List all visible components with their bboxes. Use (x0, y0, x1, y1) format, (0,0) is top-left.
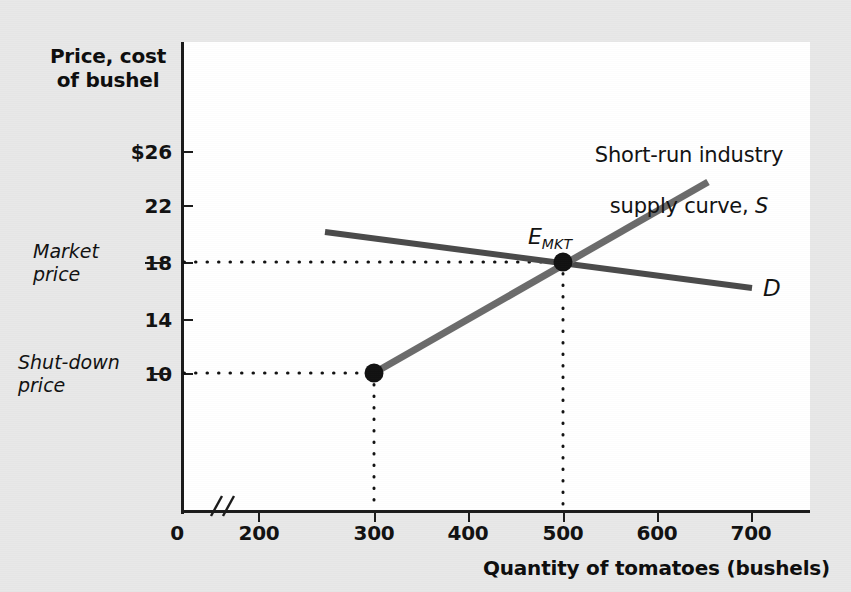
shutdown-point-marker (365, 364, 384, 383)
demand-curve-label: D (763, 274, 781, 302)
supply-label-symbol: S (755, 194, 768, 218)
figure-container: Price, cost of bushel Quantity of tomato… (0, 0, 851, 592)
supply-label-line1: Short-run industry (595, 143, 783, 167)
chart-graphics (0, 0, 851, 592)
equilibrium-label-main: E (528, 224, 542, 249)
equilibrium-point-marker (554, 253, 573, 272)
equilibrium-label: EMKT (528, 224, 572, 253)
x-axis-break-icon (211, 496, 234, 516)
supply-curve-label: Short-run industry supply curve, S (563, 117, 815, 219)
supply-label-line2: supply curve, (610, 194, 755, 218)
equilibrium-label-sub: MKT (542, 236, 573, 252)
